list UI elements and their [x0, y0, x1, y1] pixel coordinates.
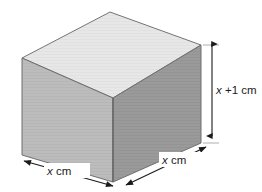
depth-dimension-label: x cm [161, 154, 186, 166]
width-dimension-label: x cm [46, 165, 71, 177]
height-label-rest: +1 cm [222, 84, 257, 96]
figure-canvas: x +1 cm x cm x cm [0, 0, 262, 192]
width-label-rest: cm [53, 165, 72, 177]
cuboid-diagram: x +1 cm x cm x cm [0, 0, 262, 192]
depth-label-rest: cm [168, 154, 187, 166]
height-dimension-label: x +1 cm [215, 84, 257, 96]
